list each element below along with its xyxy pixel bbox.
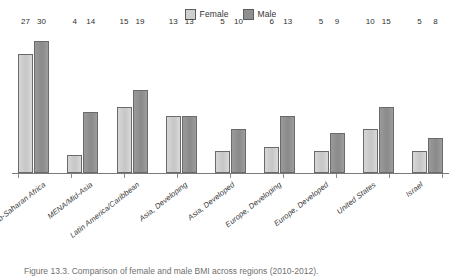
bar-item: 4 (67, 28, 82, 173)
bar-value-label: 5 (417, 18, 421, 26)
bar-item: 6 (264, 28, 279, 173)
bar-item: 9 (330, 28, 345, 173)
bar-value-label: 30 (37, 18, 46, 26)
bar-group: 1015 (363, 28, 394, 173)
bar-female[interactable] (314, 151, 329, 173)
bar-value-label: 14 (86, 18, 95, 26)
bar-group: 59 (314, 28, 345, 173)
bar-value-label: 13 (283, 18, 292, 26)
x-axis-label: Israel (404, 180, 425, 199)
bar-item: 13 (280, 28, 295, 173)
bar-value-label: 5 (319, 18, 323, 26)
bar-male[interactable] (379, 107, 394, 173)
bar-female[interactable] (18, 54, 33, 173)
chart-legend: Female Male (0, 7, 461, 21)
bar-female[interactable] (363, 129, 378, 173)
bar-male[interactable] (34, 41, 49, 173)
bar-male[interactable] (330, 133, 345, 173)
bar-female[interactable] (117, 107, 132, 173)
bar-item: 19 (133, 28, 148, 173)
bar-item: 27 (18, 28, 33, 173)
bar-group: 613 (264, 28, 295, 173)
bar-group: 2730 (18, 28, 49, 173)
bar-item: 14 (83, 28, 98, 173)
bar-item: 13 (166, 28, 181, 173)
bar-value-label: 13 (169, 18, 178, 26)
bar-value-label: 4 (73, 18, 77, 26)
bar-item: 10 (231, 28, 246, 173)
bar-value-label: 13 (185, 18, 194, 26)
bar-male[interactable] (280, 116, 295, 173)
bar-group: 414 (67, 28, 98, 173)
bar-female[interactable] (166, 116, 181, 173)
bar-female[interactable] (264, 147, 279, 173)
bar-female[interactable] (67, 155, 82, 173)
bar-group: 1313 (166, 28, 197, 173)
bar-item: 5 (412, 28, 427, 173)
legend-swatch-male-icon (243, 9, 254, 20)
bar-group: 58 (412, 28, 443, 173)
bar-male[interactable] (231, 129, 246, 173)
bar-value-label: 15 (382, 18, 391, 26)
bar-item: 13 (182, 28, 197, 173)
bar-groups: 27304141519131351061359101558 (18, 28, 443, 173)
bar-item: 15 (117, 28, 132, 173)
bar-value-label: 8 (433, 18, 437, 26)
bar-value-label: 27 (21, 18, 30, 26)
x-axis-label: Sub-Saharan Africa (0, 180, 47, 229)
x-axis-label-slot: Israel (396, 178, 443, 246)
bar-item: 10 (363, 28, 378, 173)
plot-area: 27304141519131351061359101558 (18, 28, 443, 173)
bar-value-label: 19 (136, 18, 145, 26)
x-axis-labels: Sub-Saharan AfricaMENA/Mid-AsiaLatin Ame… (18, 178, 443, 246)
bar-male[interactable] (182, 116, 197, 173)
bar-item: 30 (34, 28, 49, 173)
bar-item: 8 (428, 28, 443, 173)
x-axis-label-slot: United States (349, 178, 396, 246)
bar-item: 5 (314, 28, 329, 173)
bar-value-label: 10 (234, 18, 243, 26)
bar-value-label: 5 (220, 18, 224, 26)
bar-male[interactable] (83, 112, 98, 174)
bar-group: 510 (215, 28, 246, 173)
bar-male[interactable] (133, 90, 148, 173)
bar-group: 1519 (117, 28, 148, 173)
bar-item: 15 (379, 28, 394, 173)
bar-value-label: 9 (335, 18, 339, 26)
figure-caption: Figure 13.3. Comparison of female and ma… (24, 266, 451, 277)
bar-value-label: 10 (366, 18, 375, 26)
bar-value-label: 6 (270, 18, 274, 26)
bar-female[interactable] (412, 151, 427, 173)
bar-female[interactable] (215, 151, 230, 173)
bar-male[interactable] (428, 138, 443, 173)
bar-value-label: 15 (120, 18, 129, 26)
bar-item: 5 (215, 28, 230, 173)
